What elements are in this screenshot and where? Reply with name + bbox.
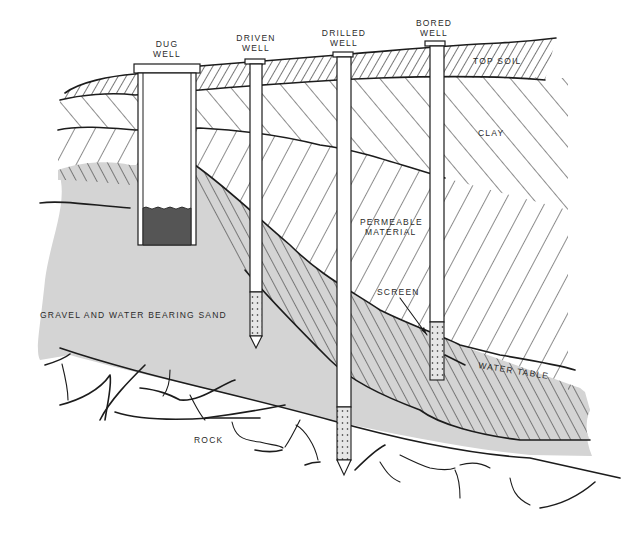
gravel-sand-label: GRAVEL AND WATER BEARING SAND: [40, 310, 227, 320]
dug-well-cap: [134, 64, 200, 73]
bored-well-label-line2: WELL: [420, 28, 448, 38]
dug-well-water: [143, 207, 191, 245]
permeable-label-line2: MATERIAL: [365, 227, 416, 237]
driven-well-screen: [250, 292, 262, 336]
dug-well-label-line1: DUG: [156, 39, 179, 49]
bored-well-cap: [425, 41, 445, 46]
driven-well-cap: [245, 59, 265, 64]
drilled-well-point: [337, 460, 351, 475]
rock-label: ROCK: [194, 435, 223, 445]
well-types-diagram: DUG WELL DRIVEN WELL DRILLED WELL BORED …: [0, 0, 641, 534]
bored-well-screen: [430, 322, 444, 380]
permeable-label-line1: PERMEABLE: [360, 217, 423, 227]
top-soil-label: TOP SOIL: [473, 56, 522, 66]
driven-well-label-line2: WELL: [242, 43, 270, 53]
clay-label: CLAY: [478, 128, 504, 138]
bored-well-pipe: [430, 46, 444, 322]
bored-well-label-line1: BORED: [416, 18, 452, 28]
dug-well: [134, 64, 200, 245]
driven-well-pipe: [250, 64, 262, 292]
drilled-well-screen: [337, 407, 351, 460]
drilled-well-pipe: [337, 57, 351, 407]
driven-well-label-line1: DRIVEN: [236, 33, 275, 43]
drilled-well-label-line2: WELL: [330, 38, 358, 48]
drilled-well-label-line1: DRILLED: [322, 28, 366, 38]
dug-well-label-line2: WELL: [153, 49, 181, 59]
drilled-well-cap: [333, 52, 353, 57]
screen-label: SCREEN: [377, 287, 420, 297]
